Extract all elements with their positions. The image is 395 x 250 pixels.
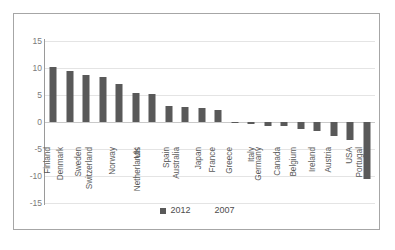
category-label: Sweden [76,147,84,177]
bar [116,84,123,122]
chart-frame: 151050-5-10-15 FinlandDenmarkSwedenSwitz… [13,13,380,230]
bar [314,122,321,131]
legend-label: 2012 [170,206,190,215]
bar [231,122,238,123]
y-tick-label: -5 [16,145,42,154]
bar [165,106,172,122]
category-label: Belgium [290,147,298,177]
bar [132,93,139,122]
bar [297,122,304,129]
category-label: USA [346,147,354,164]
category-label: Portugal [356,147,364,178]
bar [99,77,106,122]
category-label: Canada [274,147,282,176]
gridline--15 [45,203,375,204]
y-tick-label: 0 [16,118,42,127]
bar [50,67,57,122]
bar [83,75,90,122]
category-slot: Ireland [309,145,326,203]
x-axis-category-labels: FinlandDenmarkSwedenSwitzerlandNorwayUKN… [45,145,375,203]
category-label: France [210,147,218,172]
bar [149,94,156,122]
y-tick-label: -10 [16,172,42,181]
bar [264,122,271,126]
bar [215,110,222,122]
category-label: Austria [325,147,333,172]
category-label: Switzerland [86,147,94,189]
legend-swatch-icon [160,208,166,214]
bar [281,122,288,126]
bar [66,71,73,122]
category-label: Ireland [309,147,317,172]
category-label: Greece [225,147,233,174]
chart-legend: 20122007 [14,206,381,215]
category-slot: Norway [111,145,128,203]
category-label: Spain [162,147,170,168]
legend-item-2007[interactable]: 2007 [205,206,235,215]
bar [347,122,354,140]
category-label: Netherlands [134,147,142,191]
category-label: Denmark [57,147,65,180]
y-axis-tick-labels: 151050-5-10-15 [14,41,42,203]
category-slot: Austria [326,145,343,203]
legend-label: 2007 [215,206,235,215]
bar [198,108,205,122]
category-slot: Australia [177,145,194,203]
bar [248,122,255,124]
y-tick-label: 10 [16,64,42,73]
legend-item-2012[interactable]: 2012 [160,206,190,215]
category-label: Norway [109,147,117,175]
category-label: Australia [173,147,181,179]
y-tick-label: 15 [16,37,42,46]
bar [330,122,337,136]
category-label: Germany [255,147,263,181]
legend-swatch-icon [205,208,211,214]
bar [182,107,189,122]
category-label: Japan [195,147,203,169]
category-slot: Netherlands [144,145,161,203]
y-tick-label: 5 [16,91,42,100]
category-slot: Portugal [359,145,376,203]
category-slot: Belgium [293,145,310,203]
category-label: Finland [44,147,52,174]
category-slot: Greece [227,145,244,203]
